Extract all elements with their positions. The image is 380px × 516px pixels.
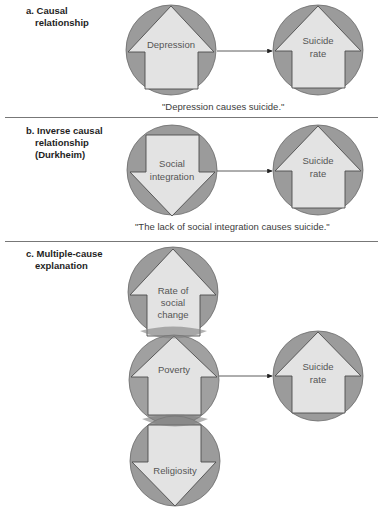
node-suicide-rate-b-label2: rate	[310, 168, 326, 179]
node-suicide-rate-b-label1: Suicide	[302, 155, 333, 166]
node-social-integration: Social integration	[127, 125, 217, 216]
node-religiosity: Religiosity	[130, 416, 220, 506]
node-rate-of-social-change-label1: Rate of	[158, 285, 189, 296]
node-poverty-label: Poverty	[158, 364, 190, 375]
node-suicide-rate-a-label1: Suicide	[302, 35, 333, 46]
causal-diagram: Depression Suicide rate Social integrati…	[0, 0, 380, 516]
node-religiosity-label: Religiosity	[153, 465, 197, 476]
node-suicide-rate-c-label1: Suicide	[302, 361, 333, 372]
node-rate-of-social-change: Rate of social change	[128, 247, 218, 337]
node-suicide-rate-a: Suicide rate	[273, 5, 363, 95]
node-suicide-rate-c-label2: rate	[310, 374, 326, 385]
node-social-integration-label2: integration	[150, 171, 194, 182]
node-suicide-rate-b: Suicide rate	[273, 125, 363, 215]
node-depression: Depression	[126, 5, 216, 95]
node-social-integration-label1: Social	[159, 158, 185, 169]
node-rate-of-social-change-label3: change	[157, 309, 188, 320]
node-suicide-rate-a-label2: rate	[310, 48, 326, 59]
node-poverty: Poverty	[129, 335, 219, 425]
node-rate-of-social-change-label2: social	[161, 297, 185, 308]
node-depression-label: Depression	[147, 39, 195, 50]
node-suicide-rate-c: Suicide rate	[273, 331, 363, 421]
